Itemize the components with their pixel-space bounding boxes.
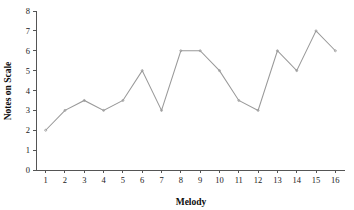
y-axis-title: Notes on Scale [3, 62, 13, 121]
x-axis-tick-label: 2 [63, 175, 67, 185]
x-axis-tick-label: 14 [292, 175, 301, 185]
y-axis-tick-label: 3 [26, 105, 30, 115]
x-axis-tick-label: 3 [82, 175, 86, 185]
x-axis-tick-label: 16 [331, 175, 340, 185]
x-axis-tick-label: 15 [312, 175, 321, 185]
chart-canvas: 012345678 12345678910111213141516 Melody… [0, 0, 354, 210]
x-axis-tick-label: 6 [140, 175, 144, 185]
y-axis-tick-label: 0 [26, 165, 30, 175]
y-axis-tick-label: 1 [26, 145, 30, 155]
y-axis-tick-label: 7 [26, 26, 30, 36]
y-axis-tick-label: 5 [26, 66, 30, 76]
x-axis-tick-label: 1 [44, 175, 48, 185]
y-axis-tick-label: 8 [26, 6, 30, 16]
x-axis-tick-label: 13 [273, 175, 282, 185]
y-axis-tick-label: 2 [26, 125, 30, 135]
x-axis-tick-label: 10 [215, 175, 224, 185]
x-axis-tick-label: 7 [159, 175, 163, 185]
x-axis-tick-label: 11 [235, 175, 243, 185]
line-chart-figure: 012345678 12345678910111213141516 Melody… [0, 0, 354, 210]
x-axis-title: Melody [176, 197, 207, 207]
x-axis-tick-label: 9 [198, 175, 202, 185]
x-axis-tick-label: 5 [121, 175, 125, 185]
y-axis-tick-label: 6 [26, 46, 30, 56]
x-axis-tick-label: 8 [179, 175, 183, 185]
x-axis-tick-label: 12 [254, 175, 263, 185]
